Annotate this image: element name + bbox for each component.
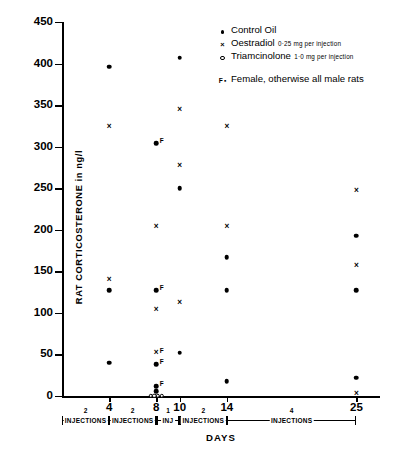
injection-label: INJECTIONS [269,417,314,424]
x-tick-label: 8 [153,402,159,414]
data-point [107,65,112,70]
y-tick-label: 50 [40,349,53,361]
injection-label: INJECTIONS [63,417,108,424]
y-tick [55,313,62,314]
open-circle-marker-icon [218,46,227,64]
female-annotation: F [160,138,164,144]
data-point [354,233,359,238]
y-tick-label: 400 [34,58,53,70]
data-point [154,141,159,146]
data-point [177,186,182,191]
data-point [354,375,359,380]
data-point: × [154,305,159,313]
data-point [154,362,159,367]
legend: Control Oil×Oestradiol 0·25 mg per injec… [218,22,390,85]
y-tick [55,354,62,355]
y-tick-label: 250 [34,182,53,194]
data-point [154,389,159,394]
injection-count: 2 [131,407,135,414]
legend-item: ×Oestradiol 0·25 mg per injection [218,35,390,48]
legend-item: Triamcinolone 1·0 mg per injection [218,49,390,62]
data-point: × [177,106,182,114]
injection-label: INJECTIONS [110,417,155,424]
bracket-cap-right [355,416,356,425]
data-point: × [354,261,359,269]
data-point [225,255,230,260]
y-tick-label: 200 [34,224,53,236]
female-marker-icon: F ▪ [218,69,227,87]
y-tick [55,64,62,65]
y-tick-label: 0 [47,390,53,402]
data-point: × [177,299,182,307]
y-tick-label: 450 [34,16,53,28]
legend-item: F ▪Female, otherwise all male rats [218,71,390,84]
data-point: × [107,123,112,131]
y-tick-label: 100 [34,307,53,319]
legend-item: Control Oil [218,22,390,35]
data-point: × [354,389,359,397]
injection-period: 4INJECTIONS [227,414,357,430]
legend-dose: 0·25 mg per injection [275,40,341,47]
injection-period: 2INJECTIONS [62,414,109,430]
data-point: × [354,187,359,195]
data-point [107,288,112,293]
figure: RAT CORTICOSTERONE in ng/l 0501001502002… [0,0,396,454]
data-point [177,350,182,355]
female-annotation: F [160,347,164,353]
legend-dose: 1·0 mg per injection [291,53,354,60]
injection-count: 1 [166,407,170,414]
injection-period: 2INJECTIONS [180,414,227,430]
legend-label: Female, otherwise all male rats [231,72,364,83]
y-tick [55,105,62,106]
data-point: × [107,276,112,284]
female-annotation: F [160,381,164,387]
data-point: × [154,223,159,231]
x-tick-label: 25 [350,402,363,414]
data-point [107,360,112,365]
injection-period-group: 2INJECTIONS2INJECTIONS1INJ2INJECTIONS4IN… [62,414,380,430]
y-tick-label: 150 [34,266,53,278]
female-annotation: F [160,285,164,291]
y-tick [55,188,62,189]
y-tick [55,271,62,272]
injection-period: 1INJ [156,414,180,430]
data-point [177,55,182,60]
data-point [154,384,159,389]
injection-count: 4 [290,407,294,414]
injection-period: 2INJECTIONS [109,414,156,430]
data-point: × [224,123,229,131]
x-tick-label: 10 [173,402,186,414]
y-tick-label: 350 [34,99,53,111]
injection-count: 2 [201,407,205,414]
x-tick-label: 4 [106,402,112,414]
bracket-cap-left [156,416,157,425]
data-point [225,288,230,293]
x-tick-label: 14 [220,402,233,414]
injection-label: INJECTIONS [181,417,226,424]
female-annotation: F [160,359,164,365]
data-point [154,288,159,293]
x-axis-title: DAYS [62,432,380,443]
y-tick [55,396,62,397]
bracket-cap-left [227,416,228,425]
y-tick [55,147,62,148]
data-point: × [224,223,229,231]
data-point [225,379,230,384]
injection-count: 2 [84,407,88,414]
data-point: × [177,162,182,170]
y-tick [55,22,62,23]
data-point [354,288,359,293]
y-tick-label: 300 [34,141,53,153]
legend-label: Triamcinolone 1·0 mg per injection [231,50,354,61]
legend-label: Oestradiol 0·25 mg per injection [231,37,341,48]
legend-label: Control Oil [231,23,276,34]
y-tick [55,230,62,231]
data-point: × [154,349,159,357]
injection-label: INJ [161,417,175,424]
